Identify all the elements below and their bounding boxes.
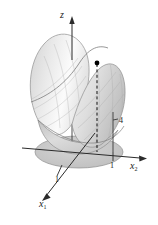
x2-axis-arrowhead bbox=[139, 156, 147, 162]
x2-tick-label: 1 bbox=[110, 162, 114, 170]
surface-mesh bbox=[30, 34, 125, 154]
x1-tick-label: 1 bbox=[55, 176, 59, 184]
x1-axis-label: x1 bbox=[39, 199, 46, 209]
z-axis-label: z bbox=[60, 10, 64, 20]
height-tick-label: 4 bbox=[119, 117, 123, 125]
x2-axis-label: x2 bbox=[130, 161, 137, 171]
z-axis-arrowhead bbox=[69, 16, 74, 24]
plot-canvas bbox=[0, 0, 158, 225]
surface-point-marker bbox=[95, 61, 100, 66]
surface-plot-figure: z x1 x2 1 1 4 bbox=[0, 0, 158, 225]
